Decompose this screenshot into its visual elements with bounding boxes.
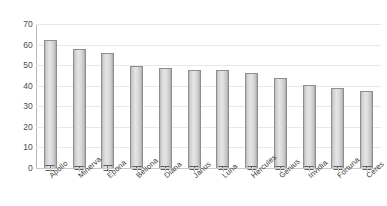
bar[interactable] [216,70,229,168]
x-slot: Janus [180,169,209,206]
x-slot: Epona [94,169,123,206]
x-axis-tick-labels: ApolloMinervaEponaBellonaDianaJanusLunaH… [36,169,381,206]
bar[interactable] [245,73,258,168]
bar[interactable] [73,49,86,168]
x-slot: Apollo [36,169,65,206]
y-axis-tick-labels: 010203040506070 [0,0,33,206]
x-slot: Invidia [295,169,324,206]
bar[interactable] [159,68,172,168]
bar[interactable] [331,88,344,168]
error-bar-cap-top [46,165,55,166]
y-tick-label: 50 [0,61,33,70]
bars-container [36,24,381,168]
bar-slot [65,24,94,168]
bar[interactable] [188,70,201,168]
x-slot: Ceres [352,169,381,206]
bar-slot [324,24,353,168]
bar-slot [180,24,209,168]
bar-slot [122,24,151,168]
y-tick-label: 10 [0,143,33,152]
y-tick-label: 20 [0,123,33,132]
y-tick-label: 40 [0,81,33,90]
bar-slot [94,24,123,168]
bar-slot [352,24,381,168]
y-tick-label: 30 [0,102,33,111]
plot-area [36,24,381,168]
bar-slot [209,24,238,168]
y-tick-label: 60 [0,40,33,49]
bar-slot [237,24,266,168]
y-tick-label: 70 [0,20,33,29]
bar[interactable] [303,85,316,168]
x-slot: Bellona [122,169,151,206]
bar-slot [36,24,65,168]
bar[interactable] [130,66,143,168]
bar[interactable] [44,40,57,168]
y-tick-label: 0 [0,164,33,173]
x-slot: Luna [209,169,238,206]
error-bar-cap-top [103,165,112,166]
bar[interactable] [101,53,114,168]
bar-slot [151,24,180,168]
bar[interactable] [274,78,287,169]
x-slot: Hercules [237,169,266,206]
bar[interactable] [360,91,373,168]
bar-chart: 010203040506070 ApolloMinervaEponaBellon… [0,0,387,206]
x-slot: Diana [151,169,180,206]
x-slot: Fortuna [324,169,353,206]
x-slot: Minerva [65,169,94,206]
x-slot: Genius [266,169,295,206]
bar-slot [266,24,295,168]
bar-slot [295,24,324,168]
